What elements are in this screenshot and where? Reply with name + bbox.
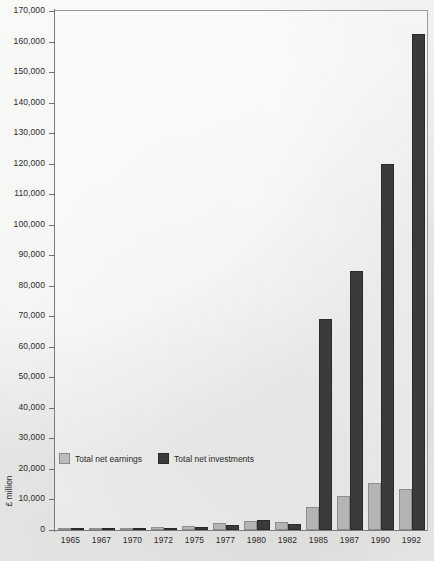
x-axis-line [54,530,428,531]
bar-group [243,520,271,530]
legend-label-earnings: Total net earnings [75,454,142,464]
y-axis-tick [49,316,55,317]
bar-total-net-investments [195,527,208,530]
y-axis-tick-label: 40,000 [18,402,45,412]
bar-total-net-investments [381,164,394,530]
plot-frame-right [427,10,428,531]
bar-group [212,523,240,530]
y-axis-tick-label: 50,000 [18,371,45,381]
bar-total-net-investments [257,520,270,530]
bar-group [305,319,333,530]
y-axis-tick-label: 100,000 [14,219,45,229]
bar-total-net-earnings [151,527,164,530]
y-axis-tick [49,103,55,104]
legend-label-investments: Total net investments [174,454,254,464]
bar-total-net-investments [226,525,239,530]
legend-item-earnings: Total net earnings [59,453,142,464]
y-axis-tick-label: 0 [40,524,45,534]
y-axis-tick [49,255,55,256]
bar-group [274,522,302,530]
bar-chart: 010,00020,00030,00040,00050,00060,00070,… [0,0,434,561]
bar-group [57,528,85,530]
y-axis-tick [49,499,55,500]
bar-total-net-earnings [399,489,412,530]
y-axis-tick [49,286,55,287]
y-axis-tick-label: 140,000 [14,97,45,107]
legend-item-investments: Total net investments [158,453,254,464]
y-axis-tick [49,438,55,439]
bar-total-net-earnings [120,528,133,530]
y-axis-tick-label: 130,000 [14,127,45,137]
bar-total-net-earnings [58,528,71,530]
y-axis-tick [49,164,55,165]
chart-legend: Total net earnings Total net investments [59,453,254,464]
y-axis-tick-label: 150,000 [14,66,45,76]
y-axis-tick-label: 90,000 [18,249,45,259]
bar-total-net-investments [71,528,84,530]
y-axis-tick-label: 110,000 [14,188,45,198]
bar-total-net-earnings [275,522,288,530]
y-axis-tick [49,133,55,134]
bar-total-net-investments [133,528,146,530]
y-axis-tick [49,408,55,409]
y-axis-tick [49,469,55,470]
bar-total-net-earnings [89,528,102,530]
bar-total-net-earnings [213,523,226,530]
bar-group [119,528,147,530]
bar-group [88,528,116,530]
bar-total-net-investments [319,319,332,530]
y-axis-tick [49,530,55,531]
y-axis-tick [49,11,55,12]
plot-frame-top [54,10,428,11]
y-axis-tick [49,42,55,43]
bar-total-net-investments [102,528,115,530]
bar-total-net-investments [412,34,425,530]
bar-total-net-earnings [306,507,319,530]
bar-group [150,527,178,530]
y-axis-tick-label: 160,000 [14,36,45,46]
bar-total-net-investments [288,524,301,530]
x-axis-tick-label: 1992 [392,535,432,545]
bar-total-net-investments [164,528,177,530]
bar-total-net-earnings [337,496,350,530]
bar-total-net-earnings [368,483,381,530]
y-axis-tick [49,225,55,226]
bar-group [181,526,209,530]
bar-group [367,164,395,530]
y-axis-title: £ million [4,461,14,521]
y-axis-tick-label: 30,000 [18,432,45,442]
y-axis-tick [49,72,55,73]
y-axis-tick-label: 120,000 [14,158,45,168]
y-axis-tick-label: 170,000 [14,5,45,15]
light-gray-swatch-icon [59,453,70,464]
y-axis-tick [49,347,55,348]
y-axis-tick-label: 20,000 [18,463,45,473]
y-axis-tick-label: 80,000 [18,280,45,290]
y-axis-tick-label: 10,000 [18,493,45,503]
y-axis-tick-label: 60,000 [18,341,45,351]
bar-group [398,34,426,530]
y-axis-line [54,9,55,532]
dark-gray-swatch-icon [158,453,169,464]
y-axis-tick [49,194,55,195]
y-axis-tick [49,377,55,378]
bar-total-net-investments [350,271,363,531]
bar-total-net-earnings [182,526,195,530]
y-axis-tick-label: 70,000 [18,310,45,320]
bar-group [336,271,364,531]
bar-total-net-earnings [244,521,257,530]
